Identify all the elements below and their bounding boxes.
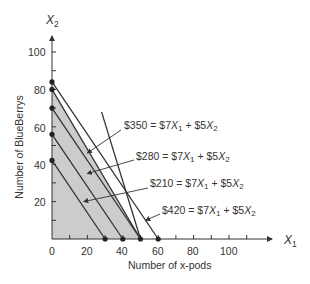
marked-point-dot [49,158,54,163]
annotation-arrow [146,214,160,220]
annotation-280: $280 = $7X1 + $5X2 [136,151,230,164]
x-tick-60: 60 [152,246,164,257]
annotation-350: $350 = $7X1 + $5X2 [124,120,218,133]
x-axis-variable: X1 [284,234,297,249]
y-axis-label: Number of BlueBerrys [13,92,25,202]
y-axis-variable: X2 [46,14,59,29]
y-tick-80: 80 [34,85,46,96]
x-tick-40: 40 [116,246,128,257]
marked-point-dot [49,87,54,92]
annotation-420: $420 = $7X1 + $5X2 [162,205,256,218]
marked-point-dot [49,132,54,137]
y-tick-100: 100 [28,47,46,58]
x-axis-label: Number of x-pods [128,259,211,271]
x-tick-100: 100 [220,246,238,257]
x-tick-0: 0 [49,246,55,257]
y-tick-40: 40 [34,160,46,171]
marked-point-dot [138,236,143,241]
marked-point-dot [49,79,54,84]
y-tick-60: 60 [34,123,46,134]
marked-point-dot [49,106,54,111]
marked-point-dot [120,236,125,241]
x-tick-80: 80 [187,246,199,257]
chart-canvas [0,0,310,284]
y-tick-20: 20 [34,197,46,208]
marked-point-dot [156,236,161,241]
x-tick-20: 20 [81,246,93,257]
annotation-210: $210 = $7X1 + $5X2 [150,178,244,191]
marked-point-dot [103,236,108,241]
